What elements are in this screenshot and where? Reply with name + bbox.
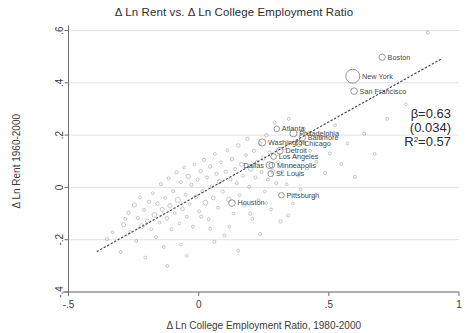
data-point	[183, 166, 186, 169]
data-point	[156, 202, 159, 205]
regression-stats-annotation: β=0.63(0.034)R2=0.57	[404, 106, 451, 149]
data-point	[198, 210, 201, 213]
data-point	[373, 153, 376, 156]
data-point	[211, 196, 215, 200]
data-point	[206, 176, 209, 179]
data-point	[263, 190, 266, 193]
data-point	[154, 236, 157, 239]
data-point	[181, 207, 185, 211]
data-point	[143, 208, 146, 211]
data-point	[173, 212, 176, 215]
data-point	[249, 212, 252, 215]
city-marker	[271, 154, 277, 160]
y-tick-labels: -.4-.20.2.4.6	[54, 26, 65, 298]
city-label: Houston	[237, 198, 264, 207]
city-marker	[259, 139, 266, 146]
data-point	[287, 117, 290, 120]
data-point	[353, 175, 356, 178]
data-point	[334, 124, 337, 127]
data-point	[426, 31, 429, 34]
data-point	[175, 171, 178, 174]
x-axis-title: Δ Ln College Employment Ratio, 1980-2000	[166, 320, 361, 331]
data-point	[237, 249, 240, 252]
data-point	[144, 256, 147, 259]
data-point	[213, 240, 216, 243]
data-point	[179, 181, 182, 184]
chart-figure: Δ Ln Rent vs. Δ Ln College Employment Ra…	[0, 0, 468, 333]
x-tick-label: .5	[325, 299, 334, 310]
data-point	[162, 246, 165, 249]
data-point	[186, 174, 190, 178]
data-point	[227, 197, 232, 202]
data-point	[236, 144, 240, 148]
city-label: New York	[362, 72, 393, 81]
data-point	[241, 174, 244, 177]
data-point	[196, 178, 199, 181]
data-point	[208, 165, 211, 168]
scatter-plot-canvas: -.50.51 -.4-.20.2.4.6 BostonNew YorkSan …	[0, 0, 468, 333]
y-tick-label: .4	[54, 78, 65, 87]
data-point	[168, 204, 172, 208]
y-tick-label: .6	[54, 26, 65, 35]
r-squared-annotation: R2=0.57	[404, 134, 451, 149]
data-point	[285, 183, 288, 186]
data-point	[270, 208, 273, 211]
data-point	[226, 149, 229, 152]
data-point	[268, 151, 271, 154]
data-point	[346, 142, 349, 145]
data-point	[185, 215, 188, 218]
data-point	[213, 153, 216, 156]
city-label: Dallas	[244, 161, 265, 170]
data-point	[287, 214, 290, 217]
data-point	[220, 161, 223, 164]
data-point	[159, 183, 162, 186]
data-point	[252, 149, 255, 152]
data-point	[328, 152, 331, 155]
data-point	[111, 231, 114, 234]
city-label: Chicago	[304, 139, 331, 148]
data-point	[224, 170, 227, 173]
data-point	[340, 162, 343, 165]
data-point	[279, 220, 282, 223]
data-point	[292, 202, 295, 205]
data-point	[132, 203, 136, 207]
data-point	[200, 215, 203, 218]
data-point	[207, 218, 210, 221]
city-marker	[266, 162, 273, 169]
y-tick-label: .2	[54, 130, 65, 139]
city-label: Pittsburgh	[286, 191, 319, 200]
data-point	[199, 169, 203, 173]
data-point	[203, 200, 208, 205]
data-point	[209, 227, 212, 230]
data-point	[191, 225, 194, 228]
data-point	[164, 196, 167, 199]
r-squared-prefix: R	[404, 134, 413, 149]
data-point	[254, 176, 257, 179]
data-point	[150, 228, 153, 231]
data-point	[404, 103, 407, 106]
data-point-group	[105, 31, 429, 267]
data-point	[184, 193, 187, 196]
city-label: San Francisco	[360, 87, 407, 96]
data-point	[202, 158, 205, 161]
data-point	[139, 196, 142, 199]
data-point	[175, 197, 180, 202]
beta-annotation: β=0.63	[411, 106, 451, 121]
city-marker	[279, 192, 285, 198]
city-label: Boston	[388, 53, 411, 62]
data-point	[232, 212, 235, 215]
city-marker	[379, 54, 385, 60]
data-point	[124, 217, 127, 220]
data-point	[221, 190, 224, 193]
data-point	[166, 264, 169, 267]
data-point	[188, 203, 191, 206]
data-point	[119, 250, 122, 253]
y-axis-title: Δ Ln Rent 1960-2000	[11, 114, 22, 209]
r-squared-value: =0.57	[418, 134, 451, 149]
data-point	[172, 190, 175, 193]
x-tick-label: -.5	[63, 299, 75, 310]
data-point	[223, 234, 226, 237]
city-marker	[351, 88, 358, 95]
data-point	[105, 238, 108, 241]
data-point	[216, 206, 219, 209]
